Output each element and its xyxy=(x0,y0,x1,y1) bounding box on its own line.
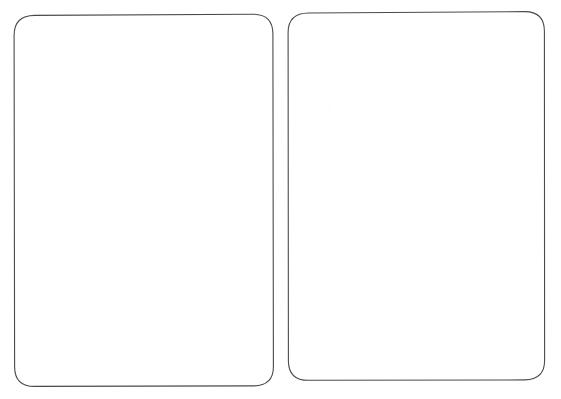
drawing-canvas xyxy=(0,0,561,399)
right-card-face[interactable] xyxy=(289,13,543,379)
left-card-face[interactable] xyxy=(15,16,272,385)
